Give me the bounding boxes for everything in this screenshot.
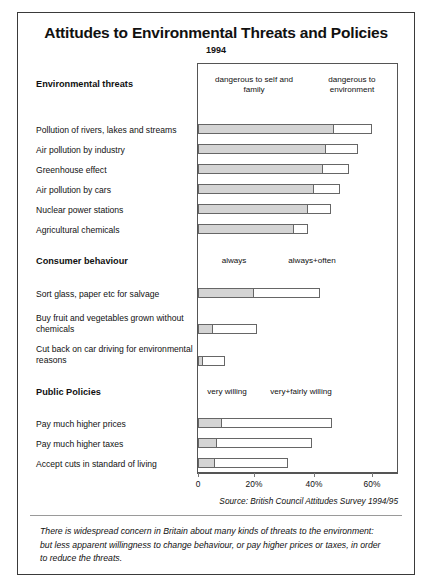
x-axis-tick-label: 60% [364,479,381,489]
row-label: Accept cuts in standard of living [36,459,157,470]
bar-inner [198,458,215,468]
row-label: Sort glass, paper etc for salvage [36,289,159,300]
row-label: Nuclear power stations [36,205,123,216]
footer-divider [30,515,402,516]
bar-inner [198,418,222,428]
legend-label-very-fairly-willing: very+fairly willing [258,387,344,397]
bar-inner [198,164,323,174]
bar-inner [198,438,217,448]
chart-frame: Attitudes to Environmental Threats and P… [17,12,415,575]
bar-inner [198,184,314,194]
row-label: Air pollution by industry [36,145,125,156]
x-axis-tick-label: 0 [196,479,201,489]
bar-inner [198,356,203,366]
bar-inner [198,224,294,234]
x-axis-tick [198,473,199,477]
row-label: Agricultural chemicals [36,225,120,236]
row-label: Pollution of rivers, lakes and streams [36,125,176,136]
row-label: Pay much higher prices [36,419,126,430]
legend-label-very-willing: very willing [204,387,250,397]
x-axis-tick-label: 20% [246,479,263,489]
bar-inner [198,324,213,334]
footnote-text: There is widespread concern in Britain a… [40,525,385,566]
chart-subtitle: 1994 [18,45,414,55]
x-axis-tick [372,473,373,477]
page-title: Attitudes to Environmental Threats and P… [18,24,414,42]
row-label: Cut back on car driving for environmenta… [36,344,201,366]
section-heading-consumer-behaviour: Consumer behaviour [36,256,128,266]
section-heading-environmental-threats: Environmental threats [36,79,133,89]
row-label: Greenhouse effect [36,165,107,176]
legend-label-dangerous-self-family: dangerous to self and family [211,75,297,95]
section-heading-public-policies: Public Policies [36,387,101,397]
source-note: Source: British Council Attitudes Survey… [18,496,398,506]
x-axis-tick-label: 40% [306,479,323,489]
chart-page: Attitudes to Environmental Threats and P… [0,0,432,586]
legend-label-always: always [207,256,261,266]
bar-inner [198,124,334,134]
row-label: Air pollution by cars [36,185,111,196]
legend-label-dangerous-environment: dangerous to environment [309,75,395,95]
x-axis-tick [254,473,255,477]
bar-inner [198,204,308,214]
row-label: Pay much higher taxes [36,439,123,450]
legend-label-always-often: always+often [266,256,358,266]
x-axis-tick [314,473,315,477]
x-axis-line [197,473,398,474]
bar-inner [198,144,326,154]
row-label: Buy fruit and vegetables grown without c… [36,313,201,335]
bar-inner [198,288,254,298]
